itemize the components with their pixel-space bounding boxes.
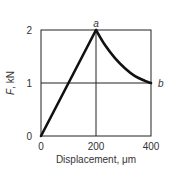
x-axis-label: Displacement, μm <box>56 154 136 165</box>
y-tick-label: 0 <box>26 131 32 142</box>
annotation-point-b: b <box>158 78 164 89</box>
point-annotations: ab <box>93 18 164 89</box>
curve-unloading <box>96 30 151 83</box>
x-tick-label: 400 <box>143 141 160 152</box>
y-tick-label: 2 <box>26 25 32 36</box>
y-axis-label: F, kN <box>5 71 16 95</box>
force-displacement-chart: 012 0200400 ab Displacement, μm F, kN <box>0 0 170 179</box>
y-tick-label: 1 <box>26 78 32 89</box>
x-tick-label: 200 <box>88 141 105 152</box>
x-tick-labels: 0200400 <box>38 141 160 152</box>
y-axis-label-unit: , kN <box>5 71 16 89</box>
x-tick-label: 0 <box>38 141 44 152</box>
annotation-point-a: a <box>93 18 99 29</box>
gridlines <box>41 30 151 136</box>
y-tick-labels: 012 <box>26 25 32 142</box>
